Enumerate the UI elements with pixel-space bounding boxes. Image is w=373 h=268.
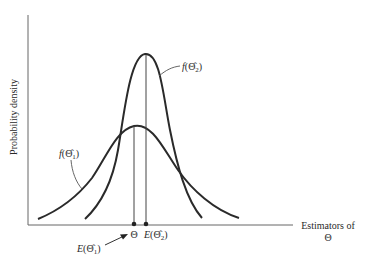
- curve-f-theta2: [85, 54, 202, 219]
- x-axis-label-line1: Estimators of: [301, 220, 355, 231]
- e-theta1-arrow-line: [105, 236, 124, 245]
- f-theta1-leader: [71, 160, 82, 189]
- theta-marker-label: Θ: [130, 229, 137, 240]
- e-theta1-label: E(Θ̂1): [76, 243, 101, 256]
- theta-dot: [132, 222, 137, 227]
- f-theta2-label: f(Θ̂2): [182, 61, 202, 74]
- arrow-head-icon: [120, 234, 128, 240]
- x-axis-label-line2: Θ: [324, 232, 331, 243]
- f-theta2-leader: [159, 66, 180, 76]
- curve-f-theta1: [38, 126, 239, 219]
- estimator-diagram: Probability density Estimators of Θ f(Θ̂…: [0, 0, 373, 268]
- y-axis-label: Probability density: [8, 79, 19, 155]
- e-theta2-dot: [144, 222, 149, 227]
- e-theta2-marker-label: E(Θ̂2): [143, 229, 168, 242]
- f-theta1-label: f(Θ̂1): [59, 148, 79, 161]
